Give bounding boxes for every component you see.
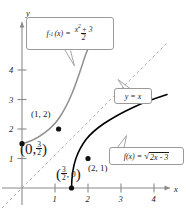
x-tick-label-2: 2 [86, 194, 90, 204]
f-lhs: f(x) = [124, 152, 143, 161]
point-label-1-2: (1, 2) [31, 109, 51, 119]
callout-leader-inverse [64, 49, 75, 67]
point-label-3over2-0: ( 3 2 , 0 ) [56, 166, 81, 182]
radical-sign-group: √ 2x - 3 [144, 151, 169, 162]
point-label-2-1: (2, 1) [88, 163, 108, 173]
fraction-denominator-b: 2 [61, 173, 67, 182]
f-inverse-arg: (x) = [54, 29, 70, 38]
callout-identity-text: y = x [125, 92, 142, 101]
fraction-numerator-xsq: x2+ 3 [74, 24, 94, 33]
x-tick-label-1: 1 [53, 194, 57, 204]
callout-f-inverse-equation: f-1(x) = x2+ 3 2 [26, 17, 114, 50]
curve-f [72, 95, 168, 188]
callout-f-text: f(x) = √ 2x - 3 [124, 151, 170, 162]
f-inverse-exponent: -1 [49, 31, 54, 37]
figure-canvas: y x 1 2 3 4 1 2 3 4 (1, 2) (2, 1) (0, 3 … [0, 0, 186, 215]
fraction-denominator-2: 2 [81, 33, 87, 42]
fraction-xsq-plus3-over-2: x2+ 3 2 [74, 24, 94, 42]
point-label-3over2-0-close: ) [76, 167, 81, 182]
radicand: 2x - 3 [149, 152, 169, 162]
callout-identity-line: y = x [114, 88, 152, 104]
identity-line-y-equals-x [2, 42, 168, 208]
point-label-0-3over2-open: (0, [20, 142, 36, 157]
fraction-numerator-b: 3 [61, 166, 67, 174]
callout-f-equation: f(x) = √ 2x - 3 [109, 147, 184, 165]
radicand-term-a: 2x [150, 153, 158, 162]
y-tick-label-2: 2 [9, 124, 13, 134]
point-label-0-3over2-close: ) [42, 142, 47, 157]
x-axis-label: x [174, 184, 178, 194]
point-2-1-dot [85, 156, 90, 161]
x-axis-arrow-icon [165, 186, 171, 191]
x-tick-label-3: 3 [119, 194, 123, 204]
numerator-exponent: 2 [78, 23, 81, 29]
y-tick-label-3: 3 [9, 95, 13, 105]
point-label-0-3over2: (0, 3 2 ) [20, 141, 47, 157]
y-tick-label-4: 4 [9, 65, 13, 75]
point-label-3over2-0-rest: , 0 [67, 169, 76, 179]
x-tick-label-4: 4 [152, 194, 156, 204]
fraction-3-over-2-b: 3 2 [61, 166, 67, 182]
point-3over2-0-dot [69, 185, 74, 190]
radicand-term-b: - 3 [160, 153, 169, 162]
y-tick-label-1: 1 [9, 154, 13, 164]
point-1-2-dot [56, 126, 61, 131]
y-axis-arrow-icon [20, 22, 25, 28]
callout-f-inverse-text: f-1(x) = x2+ 3 2 [47, 25, 94, 43]
